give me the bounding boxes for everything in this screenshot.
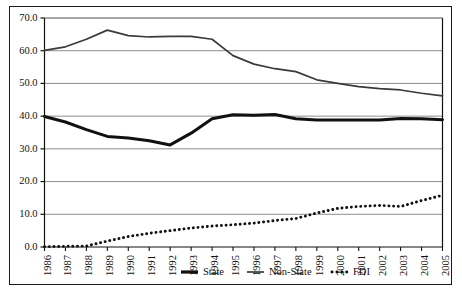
series-line-state [45, 115, 443, 145]
x-axis-tick-label: 1991 [146, 255, 157, 276]
chart-figure: 0.010.020.030.040.050.060.070.0 19861987… [0, 0, 462, 297]
y-axis-tick-label: 10.0 [19, 208, 37, 219]
y-axis-tick-label: 50.0 [19, 77, 37, 88]
x-axis-tick-label: 1987 [62, 255, 73, 276]
x-axis-tick-label: 2004 [419, 254, 430, 276]
y-axis-tick-labels: 0.010.020.030.040.050.060.070.0 [19, 12, 37, 252]
y-axis-tick-label: 0.0 [24, 241, 37, 252]
legend-label-non-state: Non-State [269, 266, 312, 277]
legend-label-fdi: FDI [353, 266, 370, 277]
y-axis-tick-label: 60.0 [19, 45, 37, 56]
x-axis-tick-label: 1990 [125, 255, 136, 276]
series-line-non-state [45, 30, 443, 96]
x-axis-tick-label: 1989 [104, 255, 115, 276]
x-axis-tick-label: 1992 [167, 255, 178, 276]
x-axis-ticks [45, 247, 443, 251]
x-axis-tick-label: 1986 [42, 255, 53, 276]
y-axis-tick-label: 40.0 [19, 110, 37, 121]
y-axis-tick-label: 20.0 [19, 175, 37, 186]
series-line-fdi [45, 195, 443, 246]
x-axis-tick-label: 1988 [83, 255, 94, 276]
plot-area-frame [45, 18, 443, 247]
x-axis-tick-label: 2002 [377, 255, 388, 276]
x-axis-tick-label: 2005 [440, 255, 451, 276]
line-chart: 0.010.020.030.040.050.060.070.0 19861987… [0, 0, 462, 297]
y-axis-tick-label: 30.0 [19, 143, 37, 154]
x-axis-tick-label: 1995 [230, 255, 241, 276]
y-axis-tick-label: 70.0 [19, 12, 37, 23]
x-axis-tick-label: 1999 [314, 255, 325, 276]
x-axis-tick-label: 2003 [398, 255, 409, 276]
legend-label-state: State [203, 266, 224, 277]
x-axis-tick-labels: 1986198719881989199019911992199319941995… [42, 254, 451, 276]
